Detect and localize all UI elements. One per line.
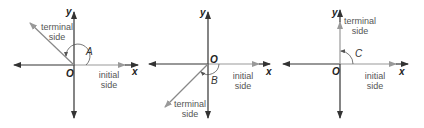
angle-label: B bbox=[211, 76, 218, 86]
diagram-b bbox=[149, 12, 270, 118]
diagram-a bbox=[14, 12, 138, 118]
y-axis-label: y bbox=[200, 8, 206, 18]
angle-arc-b bbox=[201, 64, 219, 75]
origin-label: O bbox=[66, 69, 74, 79]
angle-label: A bbox=[86, 47, 93, 57]
x-axis-label: x bbox=[399, 67, 405, 77]
y-axis-label: y bbox=[332, 8, 338, 18]
initial-side-label: initial side bbox=[228, 71, 258, 91]
x-axis-label: x bbox=[266, 67, 272, 77]
terminal-side-label: terminal side bbox=[40, 22, 74, 42]
initial-side-label: initial side bbox=[94, 70, 124, 90]
angle-arc-c bbox=[341, 51, 353, 64]
x-axis-label: x bbox=[132, 67, 138, 77]
origin-label: O bbox=[332, 67, 340, 77]
y-axis-label: y bbox=[66, 7, 72, 17]
terminal-side-label: terminal side bbox=[343, 16, 377, 36]
angle-label: C bbox=[355, 49, 362, 59]
initial-side-label: initial side bbox=[360, 71, 390, 91]
angle-diagrams-figure: y x O A terminal side initial side y x O… bbox=[0, 0, 424, 128]
origin-label: O bbox=[210, 55, 218, 65]
terminal-side-label: terminal side bbox=[173, 99, 207, 119]
